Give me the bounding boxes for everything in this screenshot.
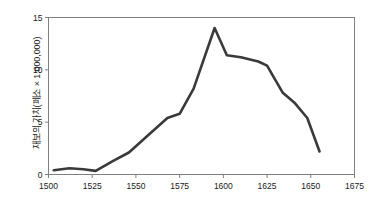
x-tick-label: 1600	[214, 181, 233, 191]
data-series-line	[54, 28, 320, 171]
y-tick-label: 5	[38, 117, 43, 127]
x-tick-label: 1625	[258, 181, 277, 191]
x-tick-label: 1575	[170, 181, 189, 191]
x-tick-label: 1550	[126, 181, 145, 191]
y-tick-label: 15	[33, 13, 43, 23]
line-chart: 재보의 가치(페소 × 1,000,000) 15001525155015751…	[0, 0, 372, 201]
y-tick-label: 0	[38, 170, 43, 180]
x-axis-ticks: 15001525155015751600162516501675	[39, 175, 364, 191]
x-tick-label: 1650	[301, 181, 320, 191]
y-axis-ticks: 051015	[33, 13, 48, 180]
plot-area: 15001525155015751600162516501675 051015	[0, 0, 372, 201]
x-tick-label: 1500	[39, 181, 58, 191]
x-tick-label: 1675	[345, 181, 364, 191]
x-tick-label: 1525	[83, 181, 102, 191]
y-tick-label: 10	[33, 65, 43, 75]
plot-frame	[49, 18, 355, 175]
